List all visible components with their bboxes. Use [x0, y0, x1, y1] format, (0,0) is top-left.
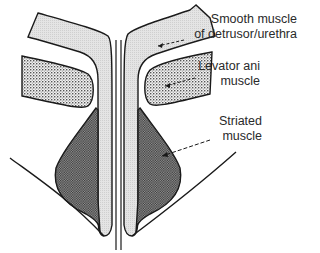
- label-striated-muscle-line1: Striated: [219, 114, 262, 129]
- label-smooth-muscle-line2: of detrusor/urethra: [194, 27, 297, 42]
- label-smooth-muscle-line1: Smooth muscle: [194, 12, 297, 27]
- levator-ani-left: [22, 56, 93, 107]
- label-levator-ani-line1: Levator ani: [198, 59, 260, 74]
- striated-muscle-right: [136, 108, 181, 232]
- label-striated-muscle: Striated muscle: [219, 114, 262, 144]
- label-levator-ani-line2: muscle: [198, 74, 260, 89]
- label-striated-muscle-line2: muscle: [219, 129, 262, 144]
- label-smooth-muscle: Smooth muscle of detrusor/urethra: [194, 12, 297, 42]
- label-levator-ani: Levator ani muscle: [198, 59, 260, 89]
- striated-muscle-left: [55, 108, 100, 232]
